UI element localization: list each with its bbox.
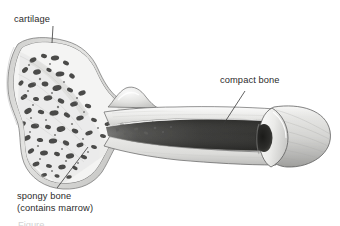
label-spongy-bone-line2: (contains marrow) (17, 203, 93, 215)
cut-end-group (256, 106, 332, 167)
clipped-bottom-caption: Figure (18, 220, 44, 226)
label-spongy-bone-line1: spongy bone (17, 191, 71, 201)
label-cartilage: cartilage (14, 14, 50, 26)
figure-canvas: cartilage compact bone spongy bone (cont… (0, 0, 340, 226)
label-spongy-bone: spongy bone (contains marrow) (17, 191, 93, 214)
tubercle-bump (108, 87, 158, 108)
label-compact-bone: compact bone (220, 75, 280, 87)
diaphysis-group (104, 107, 278, 165)
